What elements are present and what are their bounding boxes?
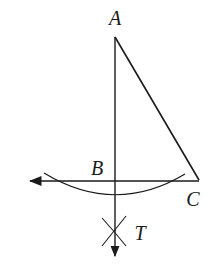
label-t: T: [134, 222, 147, 244]
label-b: B: [91, 157, 103, 179]
diagram-canvas: A B C T: [0, 0, 219, 264]
label-a: A: [107, 7, 122, 29]
label-c: C: [186, 188, 200, 210]
geometry-figure: A B C T: [0, 0, 219, 264]
segment-ac: [115, 37, 199, 180]
